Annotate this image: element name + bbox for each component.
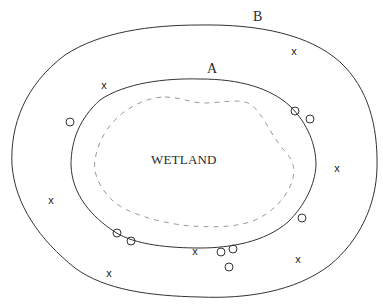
x-marker-icon: x	[192, 246, 198, 257]
o-marker-icon	[217, 248, 226, 257]
x-marker-icon: x	[291, 46, 297, 57]
o-marker-icon	[291, 107, 300, 116]
x-marker-icon: x	[334, 163, 340, 174]
o-marker-icon	[127, 237, 136, 246]
o-marker-icon	[225, 263, 234, 272]
o-marker-icon	[113, 229, 122, 238]
x-marker-icon: x	[295, 254, 301, 265]
boundary-b-label: B	[253, 9, 262, 25]
o-marker-icon	[229, 245, 238, 254]
boundary-a-label: A	[207, 61, 217, 77]
x-marker-icon: x	[101, 80, 107, 91]
x-marker-icon: x	[48, 195, 54, 206]
o-marker-icon	[298, 214, 307, 223]
o-marker-icon	[66, 118, 75, 127]
wetland-label: WETLAND	[151, 152, 217, 168]
x-marker-icon: x	[106, 268, 112, 279]
o-marker-icon	[306, 115, 315, 124]
wetland-diagram: B A WETLAND xxxxxxx	[0, 0, 383, 308]
